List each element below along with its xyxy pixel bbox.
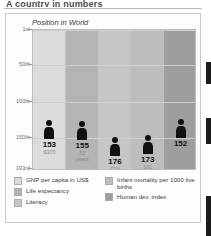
data-point-label: 17642% (108, 157, 121, 170)
person-marker: 152 (173, 119, 189, 138)
y-axis-tick-label: 100th (6, 98, 30, 104)
y-axis-tick-mark (28, 137, 32, 138)
gridline (33, 169, 195, 170)
person-marker: 173101deaths (140, 135, 156, 154)
data-point-rank: 176 (108, 157, 121, 166)
legend-item[interactable]: Infant mortality per 1000 live births (105, 176, 196, 190)
data-point-label: 173101deaths (140, 155, 156, 170)
person-marker: 153$370 (41, 120, 57, 139)
person-body-icon (143, 142, 153, 154)
y-axis-tick-label: 50th (6, 61, 30, 67)
y-axis-tick-label: 1st (6, 26, 30, 32)
data-point-label: 15552years (76, 141, 89, 162)
legend-column-right: Infant mortality per 1000 live birthsHum… (105, 176, 196, 220)
data-point-sublabel: 42% (108, 166, 121, 170)
person-marker: 17642% (107, 137, 123, 156)
person-marker: 15552years (74, 121, 90, 140)
edge-artifact-top (206, 62, 211, 84)
person-head-icon (46, 120, 52, 126)
y-axis-tick-mark (28, 64, 32, 65)
y-axis-tick-mark (28, 29, 32, 30)
data-point-rank: 152 (174, 139, 187, 148)
data-point-sublabel: $370 (43, 149, 56, 155)
y-axis-tick-mark (28, 101, 32, 102)
data-point-rank: 153 (43, 140, 56, 149)
title-divider (4, 8, 202, 9)
y-axis-tick-label: 193rd (6, 165, 30, 171)
gridline (33, 102, 195, 103)
data-point-rank: 173 (140, 155, 156, 164)
page-root: A country in numbers Position in World 1… (0, 0, 211, 236)
person-body-icon (44, 127, 54, 139)
legend-column-left: GNP per capita in US$Life expectancyLite… (14, 176, 105, 220)
data-point-sublabel-2: years (76, 156, 89, 162)
data-point-label: 152 (174, 139, 187, 148)
gridline (33, 65, 195, 66)
legend-item[interactable]: Human dev. index (105, 193, 196, 202)
data-point-label: 153$370 (43, 140, 56, 155)
legend-item[interactable]: GNP per capita in US$ (14, 176, 105, 185)
chart-card: Position in World 153$37015552years17642… (5, 13, 201, 223)
plot-caption: Position in World (32, 18, 88, 27)
legend-item-label: GNP per capita in US$ (26, 176, 88, 183)
legend-item[interactable]: Life expectancy (14, 187, 105, 196)
legend-item-label: Human dev. index (117, 193, 166, 200)
person-head-icon (145, 135, 151, 141)
legend-item-label: Literacy (26, 198, 48, 205)
chart-legend: GNP per capita in US$Life expectancyLite… (14, 176, 196, 220)
legend-swatch (14, 177, 22, 185)
legend-item[interactable]: Literacy (14, 198, 105, 207)
person-body-icon (176, 126, 186, 138)
person-body-icon (110, 144, 120, 156)
legend-item-label: Infant mortality per 1000 live births (117, 176, 196, 190)
document-title: A country in numbers (6, 0, 196, 7)
legend-swatch (105, 177, 113, 185)
legend-swatch (14, 199, 22, 207)
y-axis-tick-label: 150th (6, 134, 30, 140)
person-body-icon (77, 128, 87, 140)
plot-wrapper: Position in World 153$37015552years17642… (10, 18, 198, 170)
data-point-rank: 155 (76, 141, 89, 150)
person-head-icon (112, 137, 118, 143)
legend-item-label: Life expectancy (26, 187, 69, 194)
edge-artifact-bottom (206, 196, 211, 236)
y-axis-tick-mark (28, 168, 32, 169)
legend-swatch (105, 193, 113, 201)
edge-artifact-mid (206, 118, 211, 144)
plot-area: 153$37015552years17642%173101deaths152 (32, 29, 196, 170)
person-head-icon (79, 121, 85, 127)
legend-swatch (14, 188, 22, 196)
person-head-icon (178, 119, 184, 125)
gridline (33, 30, 195, 31)
